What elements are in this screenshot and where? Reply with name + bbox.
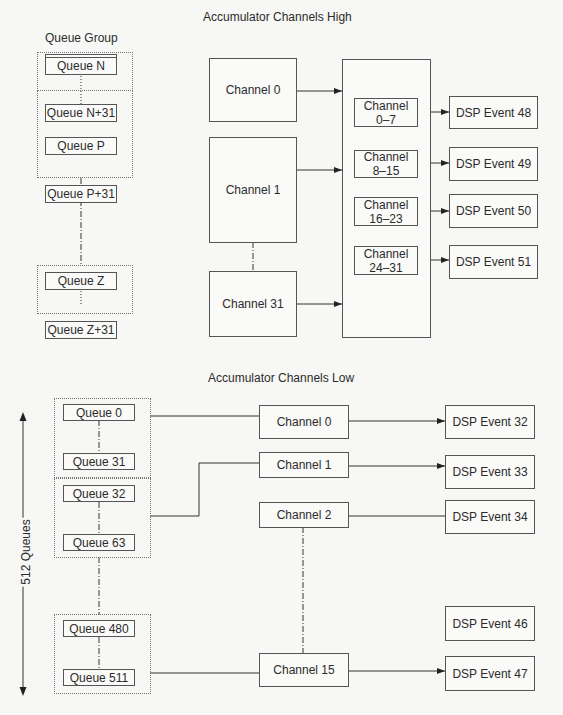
low-channel-2: Channel 2 xyxy=(259,502,349,528)
queue-0: Queue 0 xyxy=(63,404,135,421)
channel-range-16-23: Channel 16–23 xyxy=(354,197,418,226)
queue-n-box: Queue N xyxy=(45,57,117,75)
queue-group-label: Queue Group xyxy=(45,31,118,45)
high-channel-31: Channel 31 xyxy=(209,271,297,337)
dsp-event-47: DSP Event 47 xyxy=(445,656,535,691)
queue-z31-box: Queue Z+31 xyxy=(45,321,117,339)
queue-511: Queue 511 xyxy=(63,669,135,686)
dsp-event-48: DSP Event 48 xyxy=(449,96,538,129)
low-channel-0: Channel 0 xyxy=(259,405,349,439)
channel-range-0-7: Channel 0–7 xyxy=(354,98,418,127)
high-channel-0: Channel 0 xyxy=(209,58,297,122)
high-channel-1: Channel 1 xyxy=(209,137,297,243)
dsp-event-50: DSP Event 50 xyxy=(449,194,538,228)
dsp-event-51: DSP Event 51 xyxy=(449,245,538,279)
queue-n31-box: Queue N+31 xyxy=(45,104,117,122)
channel-range-24-31: Channel 24–31 xyxy=(354,246,418,275)
queue-63: Queue 63 xyxy=(63,534,135,551)
low-channel-15: Channel 15 xyxy=(259,653,349,687)
high-section-title: Accumulator Channels High xyxy=(203,10,352,24)
queue-z-box: Queue Z xyxy=(45,272,117,290)
queue-p31-box: Queue P+31 xyxy=(45,185,117,203)
queue-480: Queue 480 xyxy=(63,620,135,637)
dsp-event-34: DSP Event 34 xyxy=(445,500,535,534)
queue-31: Queue 31 xyxy=(63,453,135,470)
dsp-event-33: DSP Event 33 xyxy=(445,455,535,489)
queue-p-box: Queue P xyxy=(45,137,117,155)
queue-32: Queue 32 xyxy=(63,485,135,502)
dsp-event-46: DSP Event 46 xyxy=(445,606,535,641)
low-channel-1: Channel 1 xyxy=(259,452,349,478)
low-section-title: Accumulator Channels Low xyxy=(208,371,354,385)
channel-range-8-15: Channel 8–15 xyxy=(354,150,418,178)
dsp-event-49: DSP Event 49 xyxy=(449,147,538,181)
queue-range-label: 512 Queues xyxy=(19,517,33,586)
dsp-event-32: DSP Event 32 xyxy=(445,405,535,439)
